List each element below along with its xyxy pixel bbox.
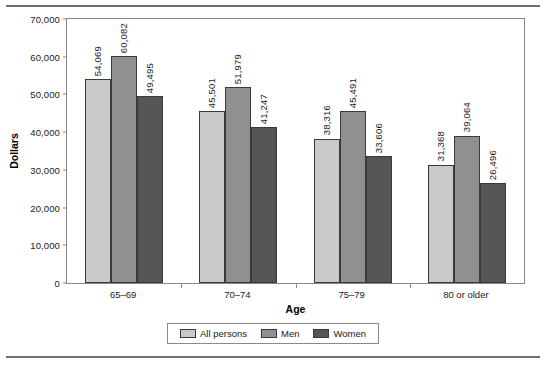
y-axis-tick-label: 60,000 bbox=[30, 51, 67, 62]
bar-value-label: 60,082 bbox=[119, 23, 129, 53]
bar-value-label: 39,064 bbox=[462, 102, 472, 132]
bar bbox=[454, 136, 480, 283]
bar-value-label: 31,368 bbox=[436, 131, 446, 161]
chart-legend: All personsMenWomen bbox=[167, 323, 379, 344]
x-axis-tick-mark bbox=[410, 283, 411, 288]
y-axis-tick-mark bbox=[63, 169, 67, 170]
bar bbox=[85, 79, 111, 283]
legend-entry: Women bbox=[313, 328, 366, 339]
bar bbox=[251, 127, 277, 283]
bar-value-label: 26,496 bbox=[488, 150, 498, 180]
x-axis-title: Age bbox=[66, 303, 525, 315]
x-axis-category-label: 65–69 bbox=[110, 289, 136, 300]
y-axis-tick-label: 70,000 bbox=[30, 14, 67, 25]
plot-area: 010,00020,00030,00040,00050,00060,00070,… bbox=[67, 19, 524, 283]
bar bbox=[314, 139, 340, 284]
bar bbox=[111, 56, 137, 283]
y-axis-tick-mark bbox=[63, 56, 67, 57]
bar bbox=[480, 183, 506, 283]
bar-value-label: 54,069 bbox=[93, 46, 103, 76]
top-rule bbox=[6, 5, 540, 7]
bar-value-label: 38,316 bbox=[322, 105, 332, 135]
y-axis-tick-mark bbox=[63, 207, 67, 208]
bar bbox=[225, 87, 251, 283]
bar bbox=[340, 111, 366, 283]
x-axis-category-label: 75–79 bbox=[338, 289, 364, 300]
y-axis-tick-label: 50,000 bbox=[30, 89, 67, 100]
y-axis-tick-mark bbox=[63, 132, 67, 133]
y-axis-tick-mark bbox=[63, 94, 67, 95]
bar-value-label: 41,247 bbox=[260, 94, 270, 124]
legend-swatch bbox=[313, 329, 329, 338]
bar-value-label: 45,491 bbox=[348, 78, 358, 108]
legend-entry: All persons bbox=[180, 328, 247, 339]
bar-value-label: 51,979 bbox=[234, 54, 244, 84]
legend-label: All persons bbox=[200, 328, 247, 339]
legend-swatch bbox=[261, 329, 277, 338]
x-axis-tick-mark bbox=[296, 283, 297, 288]
bar bbox=[428, 165, 454, 283]
x-axis-tick-mark bbox=[181, 283, 182, 288]
bar bbox=[137, 96, 163, 283]
y-axis-tick-label: 40,000 bbox=[30, 127, 67, 138]
bottom-rule bbox=[6, 356, 540, 358]
plot-frame: 010,00020,00030,00040,00050,00060,00070,… bbox=[66, 18, 525, 284]
bar bbox=[199, 111, 225, 283]
legend-swatch bbox=[180, 329, 196, 338]
y-axis-tick-mark bbox=[63, 245, 67, 246]
bar bbox=[366, 156, 392, 283]
y-axis-tick-mark bbox=[63, 283, 67, 284]
legend-label: Men bbox=[281, 328, 299, 339]
x-axis-category-label: 80 or older bbox=[443, 289, 488, 300]
y-axis-tick-label: 20,000 bbox=[30, 202, 67, 213]
bar-value-label: 49,495 bbox=[145, 63, 155, 93]
bar-value-label: 33,606 bbox=[374, 123, 384, 153]
y-axis-title: Dollars bbox=[6, 18, 22, 284]
legend-label: Women bbox=[333, 328, 366, 339]
y-axis-title-label: Dollars bbox=[8, 133, 20, 169]
bar-value-label: 45,501 bbox=[208, 78, 218, 108]
y-axis-tick-mark bbox=[63, 19, 67, 20]
chart-figure: Dollars 010,00020,00030,00040,00050,0006… bbox=[0, 0, 546, 367]
y-axis-tick-label: 10,000 bbox=[30, 240, 67, 251]
x-axis-category-label: 70–74 bbox=[224, 289, 250, 300]
legend-entry: Men bbox=[261, 328, 299, 339]
y-axis-tick-label: 30,000 bbox=[30, 164, 67, 175]
